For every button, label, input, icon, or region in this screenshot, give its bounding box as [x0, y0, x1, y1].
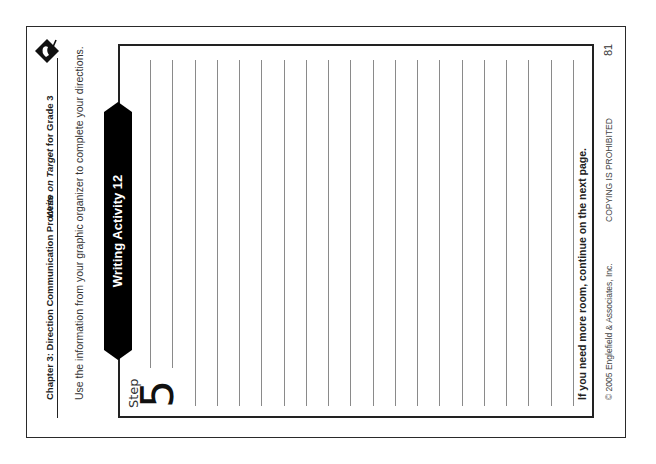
writing-line	[551, 60, 552, 406]
worksheet-page: Chapter 3: Direction Communication Proce…	[0, 0, 656, 464]
writing-line	[217, 60, 218, 406]
book-title: Write on Target for Grade 3	[44, 96, 55, 218]
book-title-prefix: Write on	[44, 178, 55, 218]
scanned-page-viewport: Chapter 3: Direction Communication Proce…	[0, 0, 656, 464]
writing-line	[395, 60, 396, 406]
chapter-title: Chapter 3: Direction Communication Proce…	[44, 195, 55, 400]
writing-line	[417, 60, 418, 406]
page-number: 81	[602, 44, 614, 56]
copyright-text: © 2005 Englefield & Associates, Inc.	[604, 263, 614, 400]
writing-box	[118, 44, 594, 418]
copying-notice: COPYING IS PROHIBITED	[604, 118, 614, 222]
writing-line	[528, 60, 529, 406]
writing-line	[573, 60, 574, 406]
writing-line	[484, 60, 485, 406]
writing-line	[172, 60, 173, 368]
book-title-suffix: for Grade 3	[44, 96, 55, 149]
writing-line	[506, 60, 507, 406]
book-title-target: Target	[44, 149, 55, 178]
writing-line	[261, 60, 262, 406]
header-underline	[57, 58, 58, 418]
step-number: 5	[134, 380, 182, 408]
continue-note: If you need more room, continue on the n…	[576, 148, 588, 400]
writing-line	[462, 60, 463, 406]
writing-line	[306, 60, 307, 406]
writing-line	[350, 60, 351, 406]
writing-line	[239, 60, 240, 406]
writing-line	[150, 60, 151, 368]
writing-line	[328, 60, 329, 406]
writing-line	[373, 60, 374, 406]
instructions-text: Use the information from your graphic or…	[73, 46, 85, 400]
diamond-target-logo-icon	[34, 38, 60, 64]
writing-line	[284, 60, 285, 406]
activity-title: Writing Activity 12	[104, 102, 132, 360]
writing-line	[195, 60, 196, 406]
writing-line	[439, 60, 440, 406]
